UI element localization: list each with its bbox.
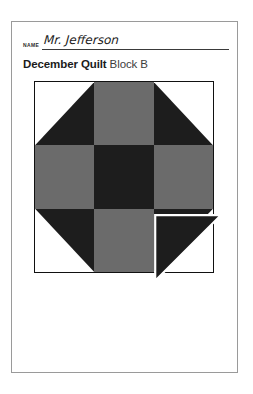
triangle-dark [35, 209, 94, 272]
quilt-cell-bottom-left [35, 209, 94, 272]
quilt-cell-bottom-right [154, 209, 213, 272]
page-title: December QuiltBlock B [23, 54, 148, 72]
page-title-main: December Quilt [23, 58, 107, 70]
quilt-cell-top-right [154, 82, 213, 145]
quilt-cell-middle-left [35, 145, 94, 208]
quilt-grid [35, 82, 213, 272]
name-rule [42, 49, 229, 50]
worksheet-page: NAME Mr. Jefferson December QuiltBlock B [11, 21, 238, 373]
name-row: NAME Mr. Jefferson [23, 33, 229, 53]
triangle-dark [35, 82, 94, 145]
triangle-dark [154, 209, 213, 272]
quilt-cell-middle-right [154, 145, 213, 208]
name-label: NAME [23, 42, 39, 48]
quilt-cell-top-center [94, 82, 153, 145]
name-value: Mr. Jefferson [44, 33, 120, 47]
quilt-cell-middle-center [94, 145, 153, 208]
quilt-cell-bottom-center [94, 209, 153, 272]
triangle-dark [154, 82, 213, 145]
quilt-block [34, 81, 214, 273]
quilt-cell-top-left [35, 82, 94, 145]
page-title-sub: Block B [110, 58, 148, 70]
